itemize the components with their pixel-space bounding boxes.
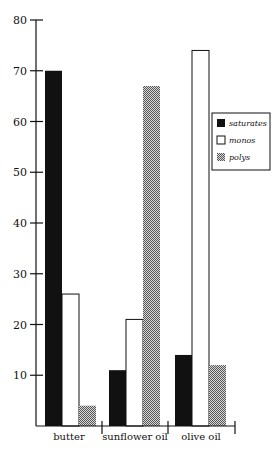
y-tick-label: 40 — [13, 217, 27, 230]
bar-monos — [126, 319, 143, 426]
category-label: butter — [53, 431, 85, 442]
y-tick-label: 50 — [13, 166, 27, 179]
y-tick-label: 80 — [13, 14, 27, 27]
category-label: olive oil — [181, 431, 221, 442]
y-tick-label: 30 — [13, 268, 27, 281]
bar-saturates — [109, 370, 126, 426]
category-label: sunflower oil — [102, 431, 168, 442]
bar-saturates — [175, 355, 192, 426]
bar-monos — [62, 294, 79, 426]
legend: saturatesmonospolys — [212, 113, 270, 170]
legend-label: monos — [229, 136, 255, 145]
y-tick-label: 60 — [13, 116, 27, 129]
bar-polys — [79, 406, 96, 426]
y-tick-label: 20 — [13, 319, 27, 332]
bars — [45, 50, 226, 426]
legend-swatch-monos — [217, 136, 225, 144]
bar-monos — [192, 50, 209, 426]
bar-saturates — [45, 71, 62, 426]
legend-label: polys — [229, 153, 250, 162]
y-axis: 1020304050607080 — [13, 14, 43, 426]
y-tick-label: 10 — [13, 369, 27, 382]
legend-swatch-saturates — [217, 119, 225, 127]
legend-label: saturates — [229, 119, 267, 128]
y-tick-label: 70 — [13, 65, 27, 78]
bar-chart: 1020304050607080 buttersunflower oiloliv… — [0, 0, 275, 454]
bar-polys — [209, 365, 226, 426]
legend-swatch-polys — [217, 153, 225, 161]
bar-polys — [143, 86, 160, 426]
